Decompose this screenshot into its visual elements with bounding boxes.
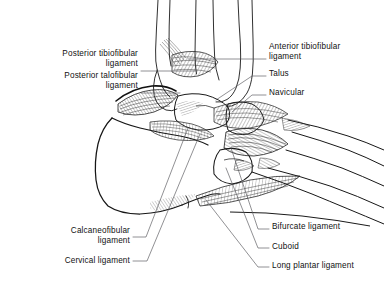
- label-posterior-tibiofibular-ligament: Posterior tibiofibular ligament: [16, 49, 138, 69]
- label-long-plantar-ligament: Long plantar ligament: [272, 261, 384, 271]
- talar-neck-hatch: [176, 101, 203, 116]
- posterior-tibiofibular-ligament-shape: [172, 51, 218, 76]
- leader-long-plantar: [206, 200, 269, 267]
- label-cuboid: Cuboid: [272, 242, 384, 252]
- label-navicular: Navicular: [269, 88, 369, 98]
- long-plantar-ligament-shape: [196, 176, 300, 206]
- figure-canvas: Posterior tibiofibular ligament Posterio…: [0, 0, 384, 285]
- bifurcate-ligament-shape: [224, 128, 288, 156]
- label-posterior-talofibular-ligament: Posterior talofibular ligament: [16, 71, 138, 91]
- leader-talus: [216, 76, 266, 100]
- calcaneofibular-ligament-shape: [150, 121, 214, 141]
- label-talus: Talus: [269, 69, 369, 79]
- label-bifurcate-ligament: Bifurcate ligament: [272, 222, 384, 232]
- label-anterior-tibiofibular-ligament: Anterior tibiofibular ligament: [269, 42, 384, 62]
- dorsal-midfoot-ligament-hatch: [214, 102, 288, 129]
- label-cervical-ligament: Cervical ligament: [20, 256, 130, 266]
- label-calcaneofibular-ligament: Calcaneofibular ligament: [20, 226, 130, 246]
